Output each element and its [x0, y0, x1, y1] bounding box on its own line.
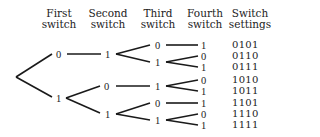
setting-0110: 0110 [232, 51, 259, 61]
node-fourth-5: 1 [201, 86, 206, 97]
node-fourth-1: 1 [201, 40, 206, 51]
node-second-b: 0 [104, 81, 109, 92]
setting-0101: 0101 [232, 40, 259, 50]
node-second-c: 1 [105, 109, 110, 120]
node-fourth-3: 1 [201, 62, 206, 73]
setting-0111: 0111 [232, 62, 259, 72]
node-fourth-2: 0 [201, 51, 206, 62]
node-first-1: 1 [56, 93, 61, 104]
node-third-b: 1 [155, 57, 160, 68]
node-fourth-8: 1 [201, 120, 206, 131]
setting-1010: 1010 [232, 75, 259, 85]
setting-1101: 1101 [232, 98, 259, 108]
setting-1111: 1111 [232, 120, 259, 130]
node-second-a: 1 [105, 49, 110, 60]
node-third-e: 1 [155, 115, 160, 126]
setting-1110: 1110 [232, 109, 259, 119]
setting-1011: 1011 [232, 86, 259, 96]
node-fourth-7: 0 [201, 109, 206, 120]
node-first-0: 0 [56, 49, 61, 60]
node-fourth-6: 1 [201, 98, 206, 109]
node-third-d: 0 [155, 98, 160, 109]
node-third-a: 0 [155, 40, 160, 51]
node-fourth-4: 0 [201, 75, 206, 86]
node-third-c: 1 [155, 81, 160, 92]
